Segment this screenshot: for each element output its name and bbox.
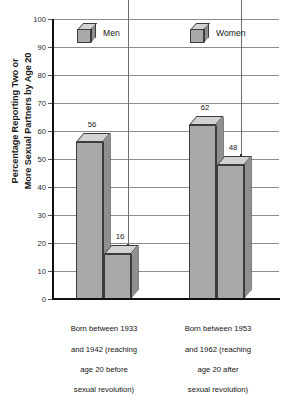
plot-area: 100 90 80 70 60 50	[52, 19, 279, 299]
category-label-group1: Born between 1933 and 1942 (reaching age…	[49, 314, 159, 398]
ytick-label-90: 90	[38, 43, 46, 52]
legend-item-women: Women	[190, 23, 245, 43]
gridline-90	[52, 47, 279, 48]
ytick-label-10: 10	[38, 267, 46, 276]
y-axis-title-line-1: Percentage Reporting Two or	[9, 59, 22, 184]
bar-men-group1: 56	[76, 142, 103, 299]
leader-line-men	[128, 0, 129, 245]
bar-value-women-group2: 48	[216, 143, 250, 152]
bar-value-men-group1: 56	[75, 120, 109, 129]
category-label-group2-line-2: and 1962 (reaching	[163, 345, 273, 355]
category-label-group2-line-3: age 20 after	[163, 365, 273, 375]
bar-value-women-group1: 16	[103, 232, 137, 241]
bar-front-face	[104, 254, 131, 299]
bar-value-men-group2: 62	[188, 103, 222, 112]
ytick-label-60: 60	[38, 127, 46, 136]
category-label-group1-line-3: age 20 before	[49, 365, 159, 375]
y-axis-title: Percentage Reporting Two or More Sexual …	[7, 14, 37, 229]
gridline-80	[52, 75, 279, 76]
x-axis-line	[52, 298, 280, 300]
cube-swatch-icon	[190, 23, 209, 43]
category-label-group2: Born between 1953 and 1962 (reaching age…	[163, 314, 273, 398]
category-label-group2-line-4: sexual revolution)	[163, 385, 273, 395]
ytick-label-30: 30	[38, 211, 46, 220]
legend-label-men: Men	[103, 28, 120, 38]
legend-item-men: Men	[77, 23, 120, 43]
bar-women-group2: 48	[217, 165, 244, 299]
ytick-label-70: 70	[38, 99, 46, 108]
y-axis-line	[52, 19, 54, 300]
bar-women-group1: 16	[104, 254, 131, 299]
category-label-group1-line-2: and 1942 (reaching	[49, 345, 159, 355]
bar-side-face	[131, 245, 139, 299]
category-label-group2-line-1: Born between 1953	[163, 324, 273, 334]
bar-side-face	[244, 156, 252, 299]
bar-front-face	[217, 165, 244, 299]
bar-men-group2: 62	[189, 125, 216, 299]
ytick-label-100: 100	[33, 15, 46, 24]
ytick-label-50: 50	[38, 155, 46, 164]
category-label-group1-line-4: sexual revolution)	[49, 385, 159, 395]
gridline-70	[52, 103, 279, 104]
ytick-label-40: 40	[38, 183, 46, 192]
gridline-60	[52, 131, 279, 132]
category-label-group1-line-1: Born between 1933	[49, 324, 159, 334]
bar-front-face	[189, 125, 216, 299]
ytick-label-20: 20	[38, 239, 46, 248]
ytick-label-80: 80	[38, 71, 46, 80]
ytick-label-0: 0	[42, 295, 46, 304]
legend-label-women: Women	[216, 28, 245, 38]
bar-front-face	[76, 142, 103, 299]
cube-swatch-icon	[77, 23, 96, 43]
gridline-100	[52, 19, 279, 20]
y-axis-title-line-2: More Sexual Partners by Age 20	[22, 53, 35, 190]
